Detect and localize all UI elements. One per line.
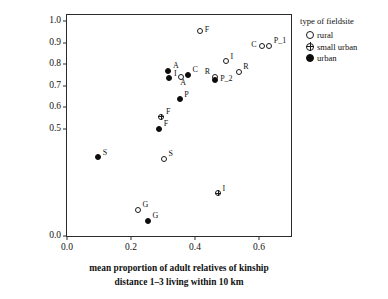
y-axis-tick-label: 0.6: [49, 103, 61, 113]
y-axis-tick-label: 1.0: [49, 17, 61, 27]
legend-item-smallurban[interactable]: small urban: [306, 42, 386, 52]
data-point[interactable]: [223, 58, 229, 64]
plot-area: 0.00.50.60.70.80.91.00.00.20.40.6FCP_1IA…: [67, 15, 291, 236]
plot-frame: 0.00.50.60.70.80.91.00.00.20.40.6FCP_1IA…: [66, 14, 292, 237]
x-axis-tick-label: 0.2: [125, 243, 137, 253]
data-point[interactable]: [145, 218, 151, 224]
data-point-label: S: [168, 150, 172, 158]
data-point-label: P: [184, 91, 188, 99]
legend-item-label: rural: [317, 30, 333, 40]
x-axis-title-line1: mean proportion of adult relatives of ki…: [40, 261, 318, 275]
data-point[interactable]: [197, 28, 203, 34]
data-point[interactable]: [165, 68, 171, 74]
y-axis-tick-label: 0.7: [49, 81, 61, 91]
data-point-label: I: [174, 70, 177, 78]
data-point-label: S: [103, 149, 107, 157]
data-point-label: R: [205, 68, 210, 76]
y-axis-tick: [63, 64, 67, 65]
data-point-label: G: [152, 212, 158, 220]
data-point-label: A: [180, 79, 186, 87]
data-point-label: F: [166, 108, 170, 116]
legend-item-label: small urban: [317, 42, 357, 52]
data-point[interactable]: [212, 77, 218, 83]
data-point[interactable]: [266, 43, 272, 49]
data-point[interactable]: [161, 156, 167, 162]
legend-entries: ruralsmall urbanurban: [300, 30, 386, 63]
data-point-label: C: [192, 66, 197, 74]
legend-title: type of fieldsite: [300, 16, 386, 26]
data-point-label: G: [143, 201, 149, 209]
y-axis-tick: [63, 107, 67, 108]
x-axis-tick: [195, 236, 196, 240]
data-point[interactable]: [156, 126, 162, 132]
filled-circle-icon: [306, 54, 314, 62]
y-axis-title: proportion of households in which women …: [4, 0, 30, 40]
open-circle-icon: [306, 31, 314, 39]
x-axis-tick: [67, 236, 68, 240]
x-axis-tick: [131, 236, 132, 240]
data-point-label: I: [231, 53, 234, 61]
y-axis-tick-label: 0.0: [49, 231, 61, 241]
data-point[interactable]: [259, 43, 265, 49]
data-point-label: F: [205, 26, 209, 34]
data-point[interactable]: [185, 72, 191, 78]
y-axis-tick-label: 0.9: [49, 38, 61, 48]
x-axis-tick-label: 0.4: [189, 243, 201, 253]
scatter-plot-figure: proportion of households in which women …: [0, 0, 388, 299]
y-axis-tick: [63, 128, 67, 129]
data-point-label: P_2: [220, 75, 232, 83]
data-point[interactable]: [177, 96, 183, 102]
y-axis-tick: [63, 42, 67, 43]
x-axis-title: mean proportion of adult relatives of ki…: [40, 261, 318, 289]
legend-item-label: urban: [317, 53, 337, 63]
y-axis-tick: [63, 85, 67, 86]
y-axis-tick-label: 0.5: [49, 124, 61, 134]
legend-item-urban[interactable]: urban: [306, 53, 386, 63]
legend: type of fieldsite ruralsmall urbanurban: [300, 16, 386, 65]
data-point-label: P_1: [274, 37, 286, 45]
y-axis-tick-label: 0.8: [49, 60, 61, 70]
data-point[interactable]: [215, 190, 221, 196]
data-point[interactable]: [236, 69, 242, 75]
data-point-label: C: [251, 41, 256, 49]
legend-item-rural[interactable]: rural: [306, 30, 386, 40]
x-axis-tick-label: 0.6: [253, 243, 265, 253]
x-axis-tick-label: 0.0: [61, 243, 73, 253]
x-axis-title-line2: distance 1–3 living within 10 km: [40, 275, 318, 289]
data-point-label: F: [164, 120, 168, 128]
y-axis-tick: [63, 21, 67, 22]
data-point[interactable]: [95, 154, 101, 160]
data-point[interactable]: [166, 75, 172, 81]
data-point[interactable]: [135, 207, 141, 213]
crossed-circle-icon: [306, 43, 314, 51]
x-axis-tick: [259, 236, 260, 240]
data-point-label: I: [223, 185, 226, 193]
data-point-label: R: [243, 63, 248, 71]
